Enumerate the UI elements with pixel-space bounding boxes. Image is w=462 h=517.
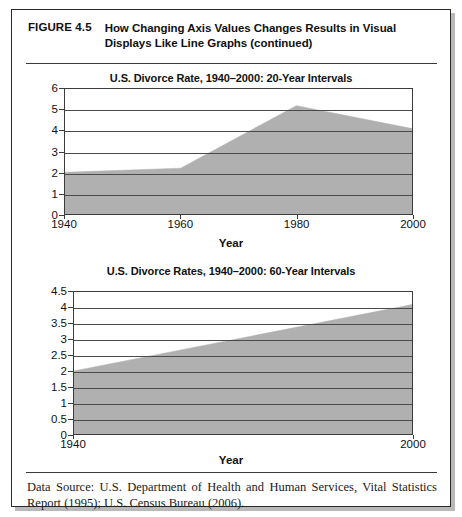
y-tick-label: 3.5 <box>35 317 67 329</box>
y-tick-mark <box>68 403 73 404</box>
data-source-note: Data Source: U.S. Department of Health a… <box>27 479 437 511</box>
y-tick-label: 2 <box>35 365 67 377</box>
gridline <box>74 324 412 325</box>
x-tick-mark <box>297 215 298 219</box>
y-tick-mark <box>68 339 73 340</box>
gridline <box>65 131 412 132</box>
footer-divider <box>26 472 437 473</box>
y-tick-label: 3 <box>35 333 67 345</box>
y-tick-label: 1 <box>26 188 58 200</box>
y-tick-label: 0.5 <box>35 413 67 425</box>
x-tick-mark <box>180 215 181 219</box>
chart-2-title: U.S. Divorce Rates, 1940–2000: 60-Year I… <box>12 265 450 277</box>
y-tick-label: 4.5 <box>35 285 67 297</box>
y-tick-mark <box>68 355 73 356</box>
header-divider <box>26 63 437 64</box>
y-tick-label: 2 <box>26 167 58 179</box>
y-tick-label: 5 <box>26 103 58 115</box>
figure-header: FIGURE 4.5 How Changing Axis Values Chan… <box>12 10 450 60</box>
figure-box: FIGURE 4.5 How Changing Axis Values Chan… <box>11 9 451 507</box>
y-tick-label: 2.5 <box>35 349 67 361</box>
gridline <box>74 404 412 405</box>
y-tick-mark <box>59 88 64 89</box>
gridline <box>74 388 412 389</box>
chart-1-x-axis-title: Year <box>12 237 450 249</box>
y-tick-mark <box>59 152 64 153</box>
y-tick-mark <box>68 307 73 308</box>
y-tick-mark <box>68 291 73 292</box>
gridline <box>65 110 412 111</box>
gridline <box>74 356 412 357</box>
figure-title: How Changing Axis Values Changes Results… <box>105 21 434 51</box>
x-tick-label: 1940 <box>60 438 86 450</box>
y-tick-label: 4 <box>35 301 67 313</box>
y-tick-mark <box>68 371 73 372</box>
y-tick-mark <box>68 323 73 324</box>
y-tick-label: 3 <box>26 146 58 158</box>
x-tick-label: 2000 <box>400 438 426 450</box>
gridline <box>74 420 412 421</box>
y-tick-label: 1 <box>35 397 67 409</box>
chart-1-title: U.S. Divorce Rate, 1940–2000: 20-Year In… <box>12 72 450 84</box>
x-tick-label: 1960 <box>168 218 194 230</box>
figure-number: FIGURE 4.5 <box>28 21 105 33</box>
x-tick-label: 2000 <box>400 218 426 230</box>
x-tick-mark <box>73 435 74 439</box>
y-tick-mark <box>59 109 64 110</box>
x-tick-label: 1940 <box>51 218 77 230</box>
y-tick-label: 1.5 <box>35 381 67 393</box>
y-tick-mark <box>68 387 73 388</box>
x-tick-mark <box>64 215 65 219</box>
chart-2-area-series <box>74 292 412 434</box>
chart-2-x-axis-title: Year <box>12 454 450 466</box>
x-tick-mark <box>413 435 414 439</box>
y-tick-mark <box>59 194 64 195</box>
x-tick-label: 1980 <box>284 218 310 230</box>
gridline <box>65 195 412 196</box>
gridline <box>65 153 412 154</box>
y-tick-label: 4 <box>26 124 58 136</box>
y-tick-mark <box>59 130 64 131</box>
y-tick-mark <box>59 173 64 174</box>
chart-1-plot-area <box>64 88 413 215</box>
chart-2-plot-area <box>73 291 413 435</box>
y-tick-label: 6 <box>26 82 58 94</box>
gridline <box>65 174 412 175</box>
gridline <box>74 340 412 341</box>
y-tick-mark <box>68 419 73 420</box>
x-tick-mark <box>413 215 414 219</box>
gridline <box>74 372 412 373</box>
gridline <box>74 308 412 309</box>
